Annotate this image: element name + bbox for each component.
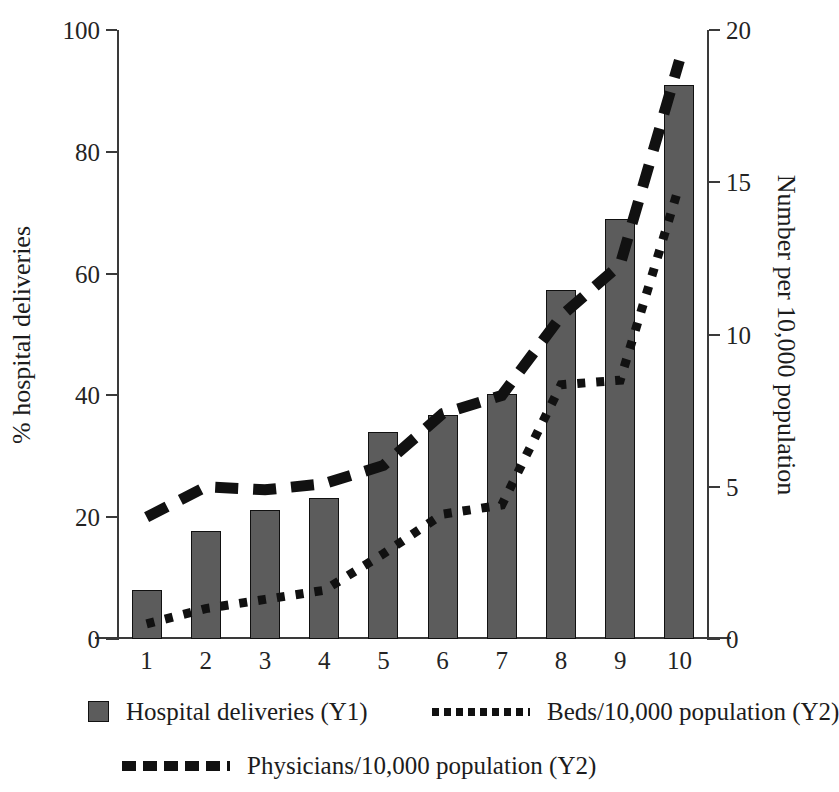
y-axis-left-line [117, 30, 119, 640]
x-axis-tick-label: 6 [436, 648, 449, 673]
legend-label-physicians: Physicians/10,000 population (Y2) [247, 753, 596, 778]
y-axis-left-tick-label: 40 [75, 383, 100, 408]
line-series-dotted [147, 185, 680, 623]
legend-label-beds: Beds/10,000 population (Y2) [547, 699, 839, 724]
y-axis-right-tick-label: 15 [726, 170, 751, 195]
y-axis-left-tick-mark [106, 273, 117, 275]
y-axis-left-tick-label: 80 [75, 139, 100, 164]
dotted-line-icon [430, 706, 532, 718]
x-axis-tick-label: 1 [140, 648, 153, 673]
bar [546, 290, 576, 639]
x-axis-tick-label: 2 [200, 648, 213, 673]
y-axis-right-tick-mark [709, 334, 720, 336]
y-axis-right-tick-label: 5 [726, 474, 739, 499]
legend-item-beds: Beds/10,000 population (Y2) [430, 699, 839, 724]
y-axis-right-tick-label: 20 [726, 18, 751, 43]
x-axis-tick-label: 10 [667, 648, 692, 673]
y-axis-right-tick-mark [709, 638, 720, 640]
x-axis-tick-label: 3 [259, 648, 272, 673]
legend-item-hospital-deliveries: Hospital deliveries (Y1) [88, 699, 368, 724]
line-series-dashed [147, 60, 680, 517]
y-axis-right-title: Number per 10,000 population [771, 175, 801, 496]
y-axis-left-tick-label: 100 [63, 18, 101, 43]
legend-item-physicians: Physicians/10,000 population (Y2) [120, 753, 596, 778]
x-axis-tick-label: 7 [496, 648, 509, 673]
bar [250, 510, 280, 639]
y-axis-right-tick-mark [709, 29, 720, 31]
bar [428, 415, 458, 639]
x-axis-tick-label: 8 [555, 648, 568, 673]
bar [487, 394, 517, 639]
bar [368, 432, 398, 639]
y-axis-right-tick-mark [709, 486, 720, 488]
bar [605, 219, 635, 639]
legend-label-hospital-deliveries: Hospital deliveries (Y1) [126, 699, 368, 724]
y-axis-right-tick-label: 10 [726, 322, 751, 347]
y-axis-left-tick-label: 0 [88, 627, 101, 652]
y-axis-left-tick-label: 60 [75, 261, 100, 286]
plot-area: 020406080100 05101520 12345678910 [117, 30, 709, 639]
y-axis-right-tick-mark [709, 181, 720, 183]
y-axis-left-tick-mark [106, 151, 117, 153]
y-axis-left-tick-label: 20 [75, 505, 100, 530]
dashed-line-icon [120, 759, 232, 773]
y-axis-left-title: % hospital deliveries [7, 226, 37, 444]
y-axis-left-tick-mark [106, 638, 117, 640]
filled-square-icon [88, 701, 109, 722]
y-axis-left-tick-mark [106, 29, 117, 31]
x-axis-tick-label: 5 [377, 648, 390, 673]
bar [664, 85, 694, 639]
bar [191, 531, 221, 639]
bar [132, 590, 162, 639]
x-axis-tick-label: 4 [318, 648, 331, 673]
bar [309, 498, 339, 639]
y-axis-left-tick-mark [106, 394, 117, 396]
x-axis-tick-label: 9 [614, 648, 627, 673]
y-axis-left-tick-mark [106, 516, 117, 518]
y-axis-right-tick-label: 0 [726, 627, 739, 652]
